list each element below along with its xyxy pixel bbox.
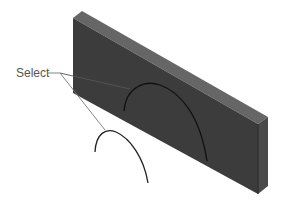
diagram-canvas: Select [0, 0, 282, 209]
select-callout-label: Select [16, 66, 49, 80]
isometric-plate-drawing [0, 0, 282, 209]
sketch-arc-free [95, 131, 148, 183]
plate-side-face [258, 117, 268, 194]
